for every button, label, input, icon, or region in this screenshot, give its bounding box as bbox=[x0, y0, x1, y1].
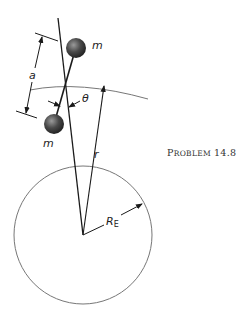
a-dim-line-down bbox=[26, 82, 32, 113]
orbit-arc bbox=[30, 87, 148, 99]
re-arrow-line-1 bbox=[83, 225, 104, 235]
caption-number: 14.8 bbox=[214, 147, 236, 158]
theta-arrow-right bbox=[69, 101, 80, 107]
re-arrow bbox=[121, 204, 142, 215]
label-radius-earth-main: R bbox=[106, 215, 114, 228]
label-radius-earth: RE bbox=[106, 215, 119, 229]
dumbbell-rod bbox=[54, 47, 76, 124]
label-mass-top: m bbox=[92, 39, 103, 52]
problem-caption: PROBLEM14.8 bbox=[167, 147, 236, 158]
label-radius-earth-sub: E bbox=[114, 220, 119, 229]
mass-top-ball bbox=[66, 38, 86, 58]
caption-prefix-small: ROBLEM bbox=[174, 149, 211, 158]
theta-arrow-left bbox=[48, 101, 60, 106]
label-radius-orbit: r bbox=[94, 148, 100, 161]
label-angle: θ bbox=[82, 92, 89, 105]
a-tick-top bbox=[35, 33, 58, 41]
problem-diagram: m m a θ r RE PROBLEM14.8 bbox=[0, 0, 251, 328]
label-mass-bottom: m bbox=[43, 137, 54, 150]
mass-bottom-ball bbox=[44, 114, 64, 134]
label-separation: a bbox=[29, 69, 36, 82]
a-dim-line-up bbox=[35, 37, 42, 68]
